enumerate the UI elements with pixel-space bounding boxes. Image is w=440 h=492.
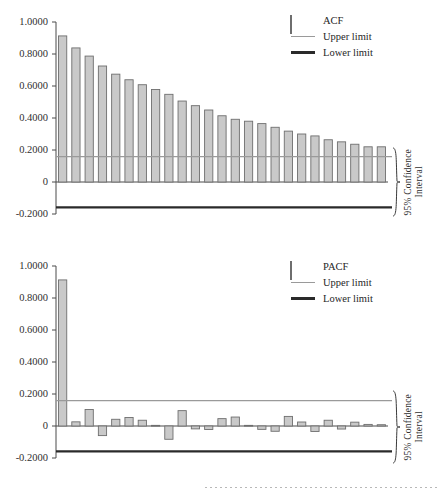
- acf-confidence-interval-annotation: 95% Confidence Interval: [392, 146, 425, 218]
- acf-ci-line2: Interval: [414, 149, 425, 215]
- acf-bar: [351, 144, 359, 182]
- pacf-bar: [231, 417, 239, 426]
- pacf-bar: [138, 420, 146, 426]
- legend-item-pacf: PACF: [290, 260, 373, 273]
- pacf-bar: [337, 426, 345, 429]
- pacf-bar: [298, 422, 306, 426]
- acf-ci-text-block: 95% Confidence Interval: [403, 149, 425, 215]
- legend-label-upper-limit: Upper limit: [323, 31, 372, 42]
- acf-bar: [205, 110, 213, 182]
- acf-bar: [377, 147, 385, 182]
- lower-limit-line-icon: [290, 294, 316, 303]
- pacf-bar: [258, 426, 266, 429]
- pacf-bar: [311, 426, 319, 431]
- legend-item-upper-limit: Upper limit: [290, 30, 373, 43]
- pacf-ci-line2: Interval: [414, 394, 425, 460]
- acf-bar: [364, 147, 372, 182]
- pacf-bar: [125, 418, 133, 426]
- upper-limit-line-icon: [290, 32, 316, 41]
- pacf-bar: [377, 425, 385, 426]
- pacf-ci-text-block: 95% Confidence Interval: [403, 394, 425, 460]
- acf-bar: [178, 101, 186, 182]
- pacf-bar: [112, 419, 120, 426]
- acf-bar: [125, 80, 133, 182]
- acf-plot-area: [0, 0, 440, 248]
- acf-ci-line1: 95% Confidence: [403, 149, 414, 215]
- pacf-bar: [218, 419, 226, 426]
- legend-item-acf: ACF: [290, 14, 373, 27]
- pacf-bar: [85, 410, 93, 426]
- acf-chart-panel: 1.00000.80000.60000.40000.20000-0.2000 A…: [0, 0, 440, 248]
- pacf-chart-panel: 1.00000.80000.60000.40000.20000-0.2000 P…: [0, 248, 440, 492]
- acf-bar: [98, 66, 106, 182]
- acf-bar: [324, 140, 332, 182]
- pacf-bar: [351, 422, 359, 426]
- upper-limit-line-icon: [290, 278, 316, 287]
- acf-bar: [165, 94, 173, 182]
- acf-swatch-icon: [290, 16, 316, 25]
- pacf-swatch-icon: [290, 262, 316, 271]
- acf-bar: [271, 127, 279, 182]
- acf-bar: [218, 116, 226, 182]
- pacf-legend: PACF Upper limit Lower limit: [290, 260, 373, 305]
- pacf-bar: [364, 424, 372, 426]
- acf-bar: [138, 85, 146, 182]
- legend-label-acf: ACF: [323, 15, 343, 26]
- pacf-bar: [165, 426, 173, 439]
- pacf-bar: [191, 426, 199, 429]
- acf-bar: [59, 36, 67, 182]
- legend-item-lower-limit: Lower limit: [290, 292, 373, 305]
- acf-bar: [298, 134, 306, 182]
- acf-pacf-figure: 1.00000.80000.60000.40000.20000-0.2000 A…: [0, 0, 440, 492]
- acf-bar: [191, 106, 199, 182]
- acf-bar: [112, 74, 120, 182]
- acf-bar: [231, 119, 239, 182]
- pacf-bar: [271, 426, 279, 431]
- acf-bar: [244, 121, 252, 182]
- acf-legend: ACF Upper limit Lower limit: [290, 14, 373, 59]
- lower-limit-line-icon: [290, 48, 316, 57]
- legend-label-upper-limit: Upper limit: [323, 277, 372, 288]
- pacf-confidence-interval-annotation: 95% Confidence Interval: [392, 389, 425, 465]
- pacf-bar: [151, 425, 159, 426]
- pacf-plot-area: [0, 248, 440, 492]
- pacf-ci-line1: 95% Confidence: [403, 394, 414, 460]
- curly-brace-right-icon: [392, 146, 401, 218]
- pacf-bar: [59, 280, 67, 426]
- pacf-bar: [244, 425, 252, 426]
- pacf-bar: [284, 416, 292, 426]
- legend-item-lower-limit: Lower limit: [290, 46, 373, 59]
- acf-bar: [311, 136, 319, 182]
- pacf-bar: [98, 426, 106, 436]
- legend-label-lower-limit: Lower limit: [323, 47, 373, 58]
- legend-label-lower-limit: Lower limit: [323, 293, 373, 304]
- acf-bar: [72, 48, 80, 182]
- acf-bar: [258, 124, 266, 182]
- pacf-bar: [72, 422, 80, 426]
- legend-label-pacf: PACF: [323, 261, 348, 272]
- acf-bar: [151, 90, 159, 182]
- legend-item-upper-limit: Upper limit: [290, 276, 373, 289]
- curly-brace-right-icon: [392, 389, 401, 465]
- pacf-bar: [205, 426, 213, 430]
- pacf-bar: [324, 420, 332, 426]
- acf-bar: [85, 56, 93, 182]
- page-bottom-dotted-rule: [205, 487, 437, 488]
- pacf-bar: [178, 411, 186, 426]
- acf-bar: [337, 142, 345, 182]
